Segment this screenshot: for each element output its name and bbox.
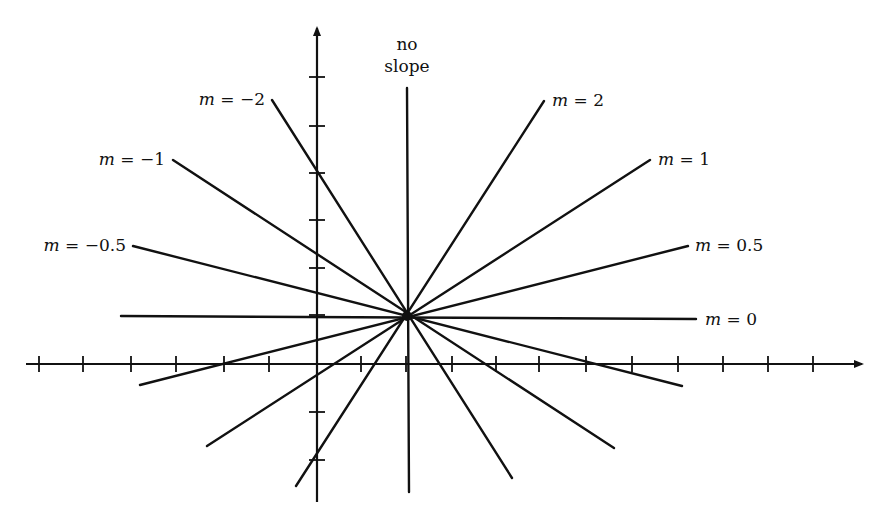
label-no-slope-line1: no: [396, 34, 417, 54]
label-m-1: m = 1: [658, 149, 710, 169]
label-m-neg-0-5: m = −0.5: [44, 235, 126, 255]
label-m-neg-1: m = −1: [99, 149, 165, 169]
slope-lines: [121, 88, 696, 492]
line-m-2: [272, 100, 512, 478]
line-m2: [296, 101, 544, 486]
line-m-1: [173, 160, 614, 448]
label-no-slope-line2: slope: [384, 56, 429, 76]
label-m-2: m = 2: [552, 90, 604, 110]
slope-diagram: no slope m = 2 m = 1 m = 0.5 m = 0 m = −…: [0, 0, 878, 526]
label-m-neg-2: m = −2: [199, 89, 265, 109]
intersection-point: [402, 311, 412, 321]
line-labels: no slope m = 2 m = 1 m = 0.5 m = 0 m = −…: [44, 34, 764, 329]
label-m-0-5: m = 0.5: [695, 235, 763, 255]
label-m-0: m = 0: [705, 309, 757, 329]
line-m1: [207, 160, 650, 446]
axes: [26, 28, 862, 502]
line-no-slope: [407, 88, 409, 492]
